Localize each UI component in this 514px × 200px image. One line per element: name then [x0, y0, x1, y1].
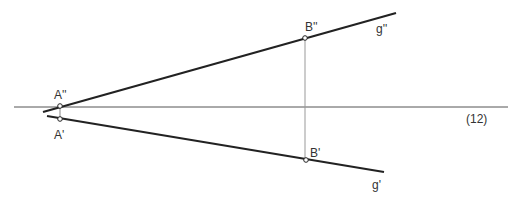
- label-g-double-prime: g'': [376, 22, 387, 36]
- label-a-prime: A': [54, 128, 64, 142]
- line-g-double-prime: [43, 13, 396, 112]
- point-a-double-prime: [58, 104, 63, 109]
- line-g-prime: [47, 116, 384, 172]
- label-b-prime: B': [310, 146, 320, 160]
- point-b-double-prime: [303, 36, 308, 41]
- point-a-prime: [58, 117, 63, 122]
- point-b-prime: [304, 158, 309, 163]
- label-b-double-prime: B'': [305, 20, 318, 34]
- label-g-prime: g': [372, 178, 381, 192]
- axis-label-12: (12): [466, 112, 487, 126]
- descriptive-geometry-diagram: A'' A' B'' B' g'' g' (12): [0, 0, 514, 200]
- label-a-double-prime: A'': [54, 88, 67, 102]
